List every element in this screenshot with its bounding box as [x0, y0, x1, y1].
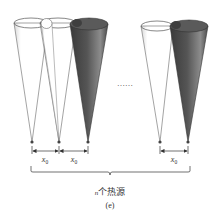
- panel-label: (e): [106, 201, 115, 210]
- heat-source-cone-diagram: …… x0 x0 x0 n个热源 (e): [0, 0, 220, 218]
- apex-dot-2: [57, 140, 60, 143]
- ellipsis: ……: [117, 79, 133, 88]
- dark-cone-3: [70, 18, 108, 142]
- dimension-x0-3: [160, 146, 188, 154]
- apex-dot-n-1: [158, 140, 161, 143]
- apex-dot-n: [186, 140, 189, 143]
- caption: n个热源: [95, 186, 126, 197]
- white-cone-n-1: [141, 21, 173, 142]
- narrow-cone: [41, 19, 59, 143]
- dimension-x0-2: [60, 146, 88, 154]
- brace: [31, 166, 190, 175]
- dimension-x0-1: [32, 146, 59, 154]
- spacing-label-3: x0: [170, 155, 178, 165]
- dark-cone-n: [170, 20, 208, 142]
- apex-dot-1: [30, 140, 33, 143]
- apex-dot-3: [86, 140, 89, 143]
- spacing-label-1: x0: [41, 155, 49, 165]
- spacing-label-2: x0: [70, 155, 78, 165]
